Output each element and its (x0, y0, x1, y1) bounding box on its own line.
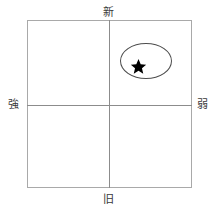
horizontal-axis-line (27, 105, 192, 106)
axis-label-right: 弱 (197, 99, 208, 110)
axis-label-bottom: 旧 (103, 194, 114, 205)
star-marker (130, 58, 147, 75)
quadrant-matrix-diagram: 新 旧 強 弱 (0, 0, 216, 214)
vertical-axis-line (109, 20, 110, 188)
axis-label-top: 新 (103, 7, 114, 18)
axis-label-left: 強 (8, 99, 19, 110)
